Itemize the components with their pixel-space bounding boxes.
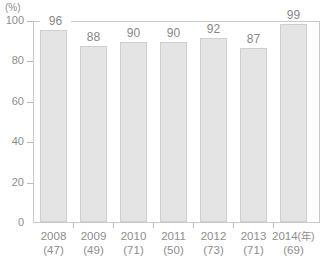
bar-2011 xyxy=(160,42,187,222)
bar-2013 xyxy=(240,48,267,222)
x-axis-label-2012: 2012 xyxy=(192,230,235,243)
x-axis-label-2008: 2008 xyxy=(32,230,75,243)
x-axis-label-2010: 2010 xyxy=(112,230,155,243)
x-axis-sublabel-2009: (49) xyxy=(72,244,115,257)
y-tick-mark xyxy=(27,21,33,22)
y-tick-mark xyxy=(27,142,33,143)
x-axis-sublabel-2010: (71) xyxy=(112,244,155,257)
y-tick-label-60: 60 xyxy=(0,96,24,107)
x-tick-mark xyxy=(273,223,274,228)
x-axis-label-2014-year: 2014 xyxy=(272,230,298,242)
bar-value-label-2010: 90 xyxy=(120,27,147,40)
bar-2014 xyxy=(280,24,307,222)
x-tick-mark xyxy=(193,223,194,228)
bar-value-label-2011: 90 xyxy=(160,27,187,40)
bar-2010 xyxy=(120,42,147,222)
x-tick-mark xyxy=(153,223,154,228)
x-axis-label-2011: 2011 xyxy=(152,230,195,243)
x-axis-label-2009: 2009 xyxy=(72,230,115,243)
y-tick-label-80: 80 xyxy=(0,55,24,66)
y-tick-mark xyxy=(27,102,33,103)
x-axis-sublabel-2008: (47) xyxy=(32,244,75,257)
bar-value-label-2013: 87 xyxy=(240,33,267,46)
bar-value-label-2009: 88 xyxy=(80,31,107,44)
bar-2012 xyxy=(200,38,227,222)
x-tick-mark xyxy=(73,223,74,228)
x-tick-mark xyxy=(113,223,114,228)
y-tick-mark xyxy=(27,61,33,62)
y-axis-unit-label: (%) xyxy=(5,2,21,13)
bar-2009 xyxy=(80,46,107,222)
bar-value-label-2014: 99 xyxy=(280,9,307,22)
x-axis-unit-label: (年) xyxy=(298,230,315,242)
x-axis-sublabel-2011: (50) xyxy=(152,244,195,257)
y-tick-label-40: 40 xyxy=(0,136,24,147)
bar-chart: (%) 100 80 60 40 20 0 96 88 90 90 92 87 … xyxy=(0,0,333,259)
x-axis-sublabel-2013: (71) xyxy=(232,244,275,257)
x-axis-label-2014: 2014(年) xyxy=(266,230,333,243)
y-tick-label-100: 100 xyxy=(0,15,24,26)
y-tick-label-0: 0 xyxy=(0,217,24,228)
x-tick-mark xyxy=(233,223,234,228)
x-axis-sublabel-2012: (73) xyxy=(192,244,235,257)
bar-2008 xyxy=(40,30,67,222)
y-tick-label-20: 20 xyxy=(0,177,24,188)
x-axis-sublabel-2014: (69) xyxy=(272,244,315,257)
bar-value-label-2008: 96 xyxy=(40,15,71,28)
y-tick-mark xyxy=(27,183,33,184)
bar-value-label-2012: 92 xyxy=(200,23,227,36)
